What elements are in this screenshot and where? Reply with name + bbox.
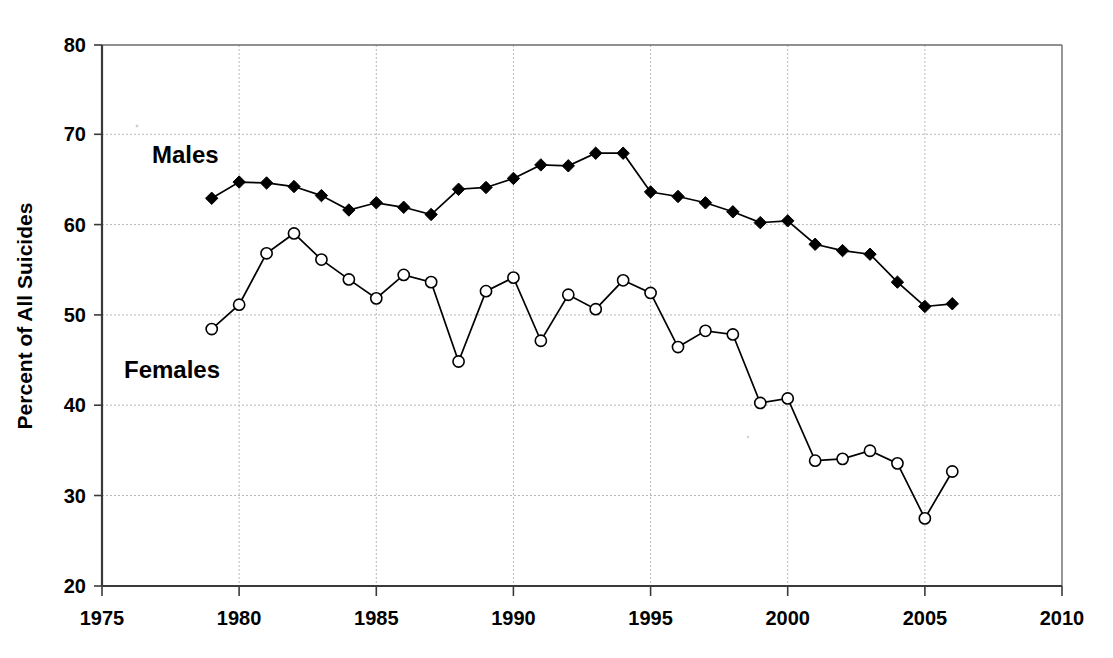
data-point-females-1995	[645, 287, 656, 298]
chart-figure: 80 70 60 50 40 30 20 1975 1980 1985 1990…	[0, 0, 1113, 658]
data-point-females-1997	[700, 325, 711, 336]
chart-background	[0, 0, 1113, 658]
ytick-label-70: 70	[64, 123, 86, 145]
ytick-label-60: 60	[64, 214, 86, 236]
data-point-females-2004	[892, 458, 903, 469]
xtick-label-1985: 1985	[354, 607, 399, 629]
data-point-females-1979	[206, 323, 217, 334]
data-point-females-1994	[618, 275, 629, 286]
series-label-males: Males	[152, 141, 219, 168]
data-point-females-1984	[343, 274, 354, 285]
xtick-label-1975: 1975	[80, 607, 125, 629]
xtick-label-1990: 1990	[491, 607, 536, 629]
y-axis-title: Percent of All Suicides	[13, 203, 36, 430]
data-point-females-2005	[919, 513, 930, 524]
data-point-females-1999	[755, 397, 766, 408]
data-point-females-1987	[426, 277, 437, 288]
data-point-females-1980	[234, 299, 245, 310]
data-point-females-2003	[864, 445, 875, 456]
xtick-label-2000: 2000	[765, 607, 810, 629]
data-point-females-1983	[316, 254, 327, 265]
data-point-females-1996	[672, 341, 683, 352]
data-point-females-2001	[810, 455, 821, 466]
xtick-label-1995: 1995	[628, 607, 673, 629]
data-point-females-1986	[398, 269, 409, 280]
data-point-females-1990	[508, 272, 519, 283]
ytick-label-40: 40	[64, 394, 86, 416]
ytick-label-20: 20	[64, 575, 86, 597]
data-point-females-1988	[453, 356, 464, 367]
data-point-females-1992	[563, 289, 574, 300]
xtick-label-1980: 1980	[217, 607, 262, 629]
xtick-label-2010: 2010	[1040, 607, 1085, 629]
ytick-label-30: 30	[64, 485, 86, 507]
xtick-label-2005: 2005	[903, 607, 948, 629]
series-label-females: Females	[124, 356, 220, 383]
data-point-females-1998	[727, 329, 738, 340]
data-point-females-2000	[782, 393, 793, 404]
data-point-females-2006	[947, 466, 958, 477]
data-point-females-1985	[371, 293, 382, 304]
data-point-females-1993	[590, 304, 601, 315]
data-point-females-1981	[261, 248, 272, 259]
ytick-label-50: 50	[64, 304, 86, 326]
data-point-females-2002	[837, 453, 848, 464]
scan-speck	[136, 125, 139, 128]
ytick-label-80: 80	[64, 34, 86, 56]
data-point-females-1991	[535, 335, 546, 346]
data-point-females-1989	[480, 286, 491, 297]
line-chart-canvas: 80 70 60 50 40 30 20 1975 1980 1985 1990…	[0, 0, 1113, 658]
scan-speck	[747, 436, 749, 438]
data-point-females-1982	[288, 228, 299, 239]
